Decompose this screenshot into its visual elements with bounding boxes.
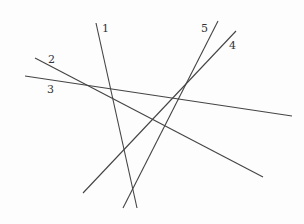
line-label-1: 1 (102, 22, 109, 35)
line-5 (123, 21, 218, 208)
line-4 (83, 31, 236, 193)
lines-group (25, 21, 292, 208)
line-3 (25, 76, 292, 116)
line-label-4: 4 (229, 39, 236, 52)
line-label-2: 2 (48, 53, 55, 66)
line-1 (96, 23, 137, 208)
line-2 (35, 58, 263, 177)
line-label-3: 3 (47, 83, 54, 96)
line-diagram: 12345 (0, 0, 304, 224)
labels-group: 12345 (47, 22, 236, 96)
line-label-5: 5 (201, 22, 208, 35)
